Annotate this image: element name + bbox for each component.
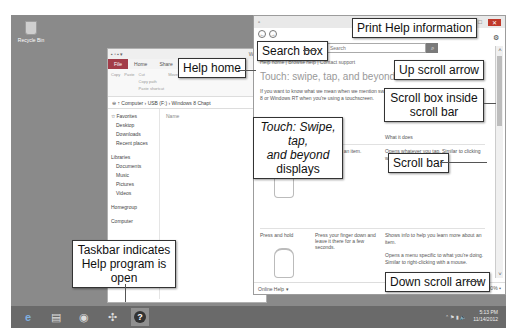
tab-home[interactable]: Home bbox=[128, 61, 153, 67]
tab-share[interactable]: Share bbox=[153, 61, 178, 67]
copy-button[interactable]: Copy bbox=[111, 72, 120, 93]
nav-computer[interactable]: Computer bbox=[111, 218, 156, 224]
copy-path-button[interactable]: Copy path bbox=[139, 79, 165, 84]
help-icon: ? bbox=[134, 311, 146, 323]
taskbar-store[interactable]: ◉ bbox=[75, 308, 93, 326]
search-input[interactable] bbox=[326, 43, 426, 53]
callout-up-scroll: Up scroll arrow bbox=[394, 60, 484, 80]
recycle-bin-icon bbox=[25, 21, 37, 35]
paste-shortcut-button[interactable]: Paste shortcut bbox=[139, 86, 165, 91]
clock[interactable]: 5:13 PM 11/14/2012 bbox=[473, 309, 498, 323]
scroll-box[interactable] bbox=[497, 56, 502, 126]
paste-button[interactable]: Paste bbox=[124, 72, 134, 93]
callout-touch-displays: Touch: Swipe, tap, and beyond displays bbox=[253, 117, 343, 179]
nav-desktop[interactable]: Desktop bbox=[111, 122, 156, 128]
maximize-button[interactable]: □ bbox=[478, 19, 482, 26]
store-icon: ◉ bbox=[79, 311, 89, 324]
table-row: Press and hold Press your finger down an… bbox=[260, 232, 485, 250]
scroll-bar[interactable]: ˄ ˅ bbox=[495, 46, 503, 278]
back-arrow-icon[interactable]: ← bbox=[258, 30, 266, 38]
nav-recent-places[interactable]: Recent places bbox=[111, 140, 156, 146]
callout-help-home: Help home bbox=[178, 58, 246, 78]
nav-homegroup[interactable]: Homegroup bbox=[111, 204, 156, 210]
nav-music[interactable]: Music bbox=[111, 172, 156, 178]
forward-arrow-icon[interactable]: → bbox=[269, 30, 277, 38]
taskbar-internet-explorer[interactable]: e bbox=[19, 308, 37, 326]
taskbar-help[interactable]: ? bbox=[131, 308, 149, 326]
recycle-bin[interactable]: Recycle Bin bbox=[15, 21, 47, 43]
name-column-header[interactable]: Name bbox=[166, 113, 179, 119]
callout-print-help: Print Help information bbox=[352, 18, 477, 38]
callout-search-box: Search box bbox=[257, 41, 328, 61]
nav-favorites[interactable]: ☆ Favorites bbox=[111, 113, 156, 119]
system-tray-icons[interactable]: ⌃ ⚑ ▮ 🔈 bbox=[445, 314, 466, 320]
help-heading: Touch: swipe, tap, and beyond bbox=[260, 71, 395, 82]
online-help-dropdown[interactable]: Online Help ▾ bbox=[258, 286, 289, 292]
app-icon: ✣ bbox=[108, 311, 117, 324]
callout-taskbar: Taskbar indicates Help program is open bbox=[72, 240, 176, 288]
cut-button[interactable]: Cut bbox=[139, 72, 165, 77]
callout-down-scroll: Down scroll arrow bbox=[385, 272, 490, 292]
nav-videos[interactable]: Videos bbox=[111, 190, 156, 196]
search-icon[interactable]: ⌕ bbox=[426, 43, 438, 53]
address-bar[interactable]: ⊖ ↑ Computer › USB (F:) › Windows 8 Chap… bbox=[108, 97, 266, 109]
callout-scroll-box: Scroll box inside scroll bar bbox=[384, 88, 484, 122]
nav-downloads[interactable]: Downloads bbox=[111, 131, 156, 137]
taskbar-file-explorer[interactable]: ▤ bbox=[47, 308, 65, 326]
internet-explorer-icon: e bbox=[25, 311, 31, 323]
taskbar: e ▤ ◉ ✣ ? ⌃ ⚑ ▮ 🔈 5:13 PM 11/14/2012 bbox=[11, 306, 506, 328]
scroll-down-arrow[interactable]: ˅ bbox=[496, 270, 504, 278]
folder-icon: ▤ bbox=[51, 311, 61, 324]
scroll-up-arrow[interactable]: ˄ bbox=[496, 46, 504, 54]
print-icon[interactable]: ⚙ bbox=[493, 34, 499, 42]
help-app-icon: ▫ bbox=[258, 19, 260, 25]
nav-libraries[interactable]: Libraries bbox=[111, 154, 156, 160]
callout-scroll-bar: Scroll bar bbox=[388, 153, 449, 173]
back-icon[interactable]: ⊖ bbox=[112, 100, 116, 106]
tab-file[interactable]: File bbox=[108, 59, 128, 69]
press-hold-gesture-illustration bbox=[274, 248, 294, 278]
quick-access-toolbar[interactable]: ▪ ▫ ▪ ▾ bbox=[111, 51, 124, 57]
nav-documents[interactable]: Documents bbox=[111, 163, 156, 169]
nav-pictures[interactable]: Pictures bbox=[111, 181, 156, 187]
taskbar-app[interactable]: ✣ bbox=[103, 308, 121, 326]
close-button[interactable]: ✕ bbox=[488, 19, 501, 26]
